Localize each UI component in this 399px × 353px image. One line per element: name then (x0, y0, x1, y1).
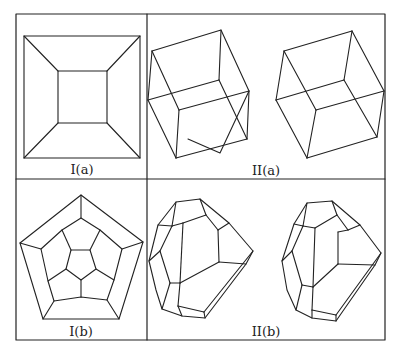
panel-label-iib: II(b) (252, 325, 281, 338)
panel-label-ib: I(b) (69, 325, 93, 338)
panel-iib-poly-left (149, 199, 253, 318)
panel-label-ia: I(a) (70, 163, 93, 176)
grid-frame (16, 14, 385, 340)
panel-iia-cube-right (276, 31, 384, 158)
panel-label-iia: II(a) (252, 164, 280, 177)
panel-iia-cube-left (148, 30, 249, 158)
panel-ia-drawing (24, 36, 140, 158)
figure-drawing (0, 0, 399, 353)
panel-iib-poly-right (282, 201, 381, 321)
figure: I(a) II(a) I(b) II(b) (0, 0, 399, 353)
panel-ib-drawing (20, 195, 143, 319)
